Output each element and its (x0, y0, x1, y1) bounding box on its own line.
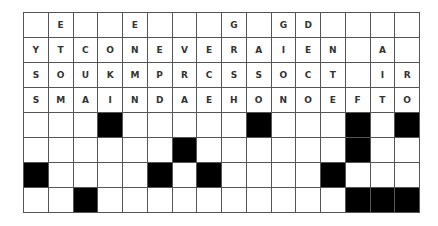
grid-cell[interactable] (148, 188, 173, 213)
grid-cell[interactable] (272, 113, 297, 138)
grid-cell[interactable]: S (247, 63, 272, 88)
grid-cell[interactable] (222, 113, 247, 138)
grid-cell[interactable]: M (123, 63, 148, 88)
grid-cell[interactable] (123, 138, 148, 163)
grid-cell[interactable] (123, 188, 148, 213)
grid-cell[interactable] (395, 13, 420, 38)
grid-cell[interactable] (346, 38, 371, 63)
grid-cell[interactable]: A (247, 38, 272, 63)
grid-cell[interactable] (371, 13, 396, 38)
grid-cell[interactable]: A (173, 88, 198, 113)
grid-cell[interactable] (49, 138, 74, 163)
grid-cell[interactable] (321, 13, 346, 38)
grid-cell[interactable]: M (49, 88, 74, 113)
grid-cell[interactable]: E (296, 38, 321, 63)
grid-cell[interactable]: O (395, 88, 420, 113)
grid-cell[interactable] (321, 188, 346, 213)
grid-cell[interactable] (395, 138, 420, 163)
grid-cell[interactable] (222, 188, 247, 213)
grid-cell[interactable] (296, 163, 321, 188)
grid-cell[interactable] (74, 163, 99, 188)
grid-cell[interactable] (49, 188, 74, 213)
grid-cell[interactable] (74, 113, 99, 138)
grid-cell[interactable]: S (222, 63, 247, 88)
grid-cell[interactable]: G (272, 13, 297, 38)
grid-cell[interactable] (272, 163, 297, 188)
grid-cell[interactable]: C (197, 63, 222, 88)
grid-cell[interactable]: A (371, 38, 396, 63)
grid-cell[interactable] (148, 113, 173, 138)
grid-cell[interactable]: O (98, 38, 123, 63)
grid-cell[interactable] (222, 138, 247, 163)
grid-cell[interactable] (321, 138, 346, 163)
grid-cell[interactable]: S (24, 63, 49, 88)
grid-cell[interactable] (49, 113, 74, 138)
grid-cell[interactable] (173, 113, 198, 138)
grid-cell[interactable]: N (321, 38, 346, 63)
grid-cell[interactable]: N (123, 38, 148, 63)
grid-cell[interactable] (148, 138, 173, 163)
grid-cell[interactable]: E (49, 13, 74, 38)
grid-cell[interactable]: C (74, 38, 99, 63)
grid-cell[interactable] (296, 113, 321, 138)
grid-cell[interactable] (346, 13, 371, 38)
grid-cell[interactable] (272, 188, 297, 213)
grid-cell[interactable] (371, 163, 396, 188)
grid-cell[interactable]: E (197, 88, 222, 113)
grid-cell[interactable]: O (272, 63, 297, 88)
grid-cell[interactable] (247, 13, 272, 38)
grid-cell[interactable]: E (148, 38, 173, 63)
grid-cell[interactable]: H (222, 88, 247, 113)
grid-cell[interactable]: T (49, 38, 74, 63)
grid-cell[interactable] (296, 188, 321, 213)
grid-cell[interactable] (98, 138, 123, 163)
grid-cell[interactable]: U (74, 63, 99, 88)
grid-cell[interactable]: I (371, 63, 396, 88)
grid-cell[interactable] (395, 38, 420, 63)
grid-cell[interactable] (247, 163, 272, 188)
grid-cell[interactable] (123, 113, 148, 138)
grid-cell[interactable] (321, 113, 346, 138)
grid-cell[interactable] (272, 138, 297, 163)
grid-cell[interactable]: I (98, 88, 123, 113)
grid-cell[interactable] (247, 188, 272, 213)
grid-cell[interactable] (173, 188, 198, 213)
grid-cell[interactable] (24, 188, 49, 213)
grid-cell[interactable]: E (123, 13, 148, 38)
grid-cell[interactable]: Y (24, 38, 49, 63)
grid-cell[interactable]: O (296, 88, 321, 113)
grid-cell[interactable] (371, 113, 396, 138)
grid-cell[interactable] (197, 113, 222, 138)
grid-cell[interactable] (98, 163, 123, 188)
grid-cell[interactable]: T (371, 88, 396, 113)
grid-cell[interactable]: I (272, 38, 297, 63)
grid-cell[interactable]: G (222, 13, 247, 38)
grid-cell[interactable] (24, 113, 49, 138)
grid-cell[interactable]: N (272, 88, 297, 113)
grid-cell[interactable]: T (321, 63, 346, 88)
grid-cell[interactable] (148, 13, 173, 38)
grid-cell[interactable] (173, 163, 198, 188)
grid-cell[interactable] (24, 13, 49, 38)
grid-cell[interactable] (247, 138, 272, 163)
grid-cell[interactable] (222, 163, 247, 188)
grid-cell[interactable]: O (247, 88, 272, 113)
grid-cell[interactable] (346, 63, 371, 88)
grid-cell[interactable] (346, 163, 371, 188)
grid-cell[interactable]: E (321, 88, 346, 113)
grid-cell[interactable] (197, 138, 222, 163)
grid-cell[interactable] (173, 13, 198, 38)
grid-cell[interactable] (98, 13, 123, 38)
grid-cell[interactable]: D (296, 13, 321, 38)
grid-cell[interactable] (296, 138, 321, 163)
grid-cell[interactable]: K (98, 63, 123, 88)
grid-cell[interactable]: D (148, 88, 173, 113)
grid-cell[interactable] (24, 138, 49, 163)
grid-cell[interactable]: R (222, 38, 247, 63)
grid-cell[interactable]: A (74, 88, 99, 113)
grid-cell[interactable] (74, 138, 99, 163)
grid-cell[interactable]: R (173, 63, 198, 88)
grid-cell[interactable] (197, 13, 222, 38)
grid-cell[interactable]: O (49, 63, 74, 88)
grid-cell[interactable]: F (346, 88, 371, 113)
